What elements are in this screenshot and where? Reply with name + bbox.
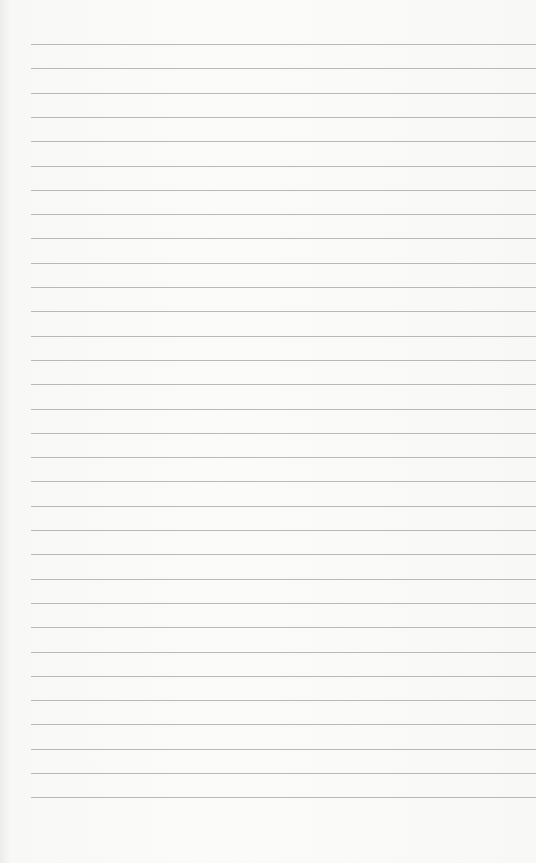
ruled-line (31, 797, 536, 798)
ruled-line (31, 773, 536, 774)
ruled-line (31, 384, 536, 385)
ruled-line (31, 287, 536, 288)
ruled-line (31, 44, 536, 45)
ruled-line (31, 433, 536, 434)
ruled-line (31, 652, 536, 653)
ruled-line (31, 481, 536, 482)
ruled-line (31, 360, 536, 361)
ruled-line (31, 700, 536, 701)
ruled-line (31, 263, 536, 264)
ruled-line (31, 336, 536, 337)
ruled-line (31, 117, 536, 118)
ruled-line (31, 579, 536, 580)
ruled-line (31, 166, 536, 167)
ruled-line (31, 724, 536, 725)
ruled-line (31, 457, 536, 458)
ruled-line (31, 627, 536, 628)
ruled-paper (0, 0, 536, 863)
ruled-line (31, 141, 536, 142)
ruled-line (31, 603, 536, 604)
ruled-line (31, 68, 536, 69)
ruled-line (31, 749, 536, 750)
ruled-line (31, 554, 536, 555)
ruled-line (31, 530, 536, 531)
ruled-line (31, 93, 536, 94)
ruled-line (31, 676, 536, 677)
ruled-line (31, 311, 536, 312)
ruled-line (31, 238, 536, 239)
ruled-line (31, 214, 536, 215)
ruled-line (31, 409, 536, 410)
ruled-line (31, 506, 536, 507)
ruled-line (31, 190, 536, 191)
